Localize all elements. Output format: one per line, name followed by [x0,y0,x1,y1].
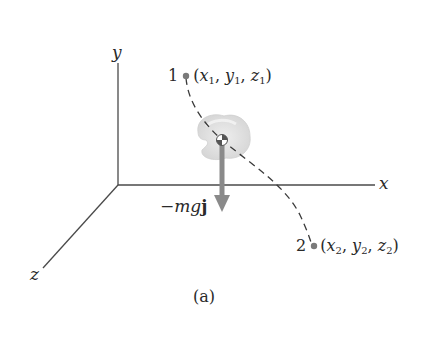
coord-x2-sub: 2 [336,245,342,256]
coord-z1-sub: 1 [259,75,265,86]
x-axis-label: x [379,173,389,193]
coord-z1: z [251,66,259,85]
z-axis-label: z [30,264,39,284]
point-1-number: 1 [168,66,178,85]
coord-z2: z [378,236,386,255]
coord-x1-sub: 1 [209,75,215,86]
y-axis-label: y [112,42,122,62]
weight-force-label: −mgj [160,196,207,216]
center-of-mass-icon [217,135,228,146]
coord-x1: x [200,66,209,85]
force-mg: mg [174,196,201,216]
trajectory-path [186,78,312,246]
coord-z2-sub: 2 [386,245,392,256]
coord-y1: y [225,66,234,85]
diagram-canvas [0,0,432,340]
force-minus-sign: − [160,196,174,216]
point-2-number: 2 [296,236,306,255]
figure-caption: (a) [193,287,215,306]
force-unit-vector-j: j [201,196,207,216]
point-1-label: 1 (x1, y1, z1) [168,66,272,86]
particle-trajectory-diagram: y x z 1 (x1, y1, z1) 2 (x2, y2, z2) −mgj… [0,0,432,340]
coord-x2: x [327,236,336,255]
coord-y1-sub: 1 [234,75,240,86]
point-2-label: 2 (x2, y2, z2) [296,236,399,256]
coord-y2: y [352,236,361,255]
z-axis-line [43,185,118,268]
coord-y2-sub: 2 [361,245,367,256]
